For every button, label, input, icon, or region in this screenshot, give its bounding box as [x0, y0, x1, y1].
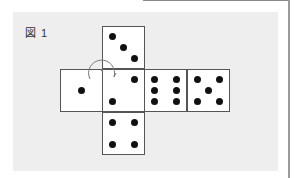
rotation-arrow-icon	[0, 0, 294, 178]
